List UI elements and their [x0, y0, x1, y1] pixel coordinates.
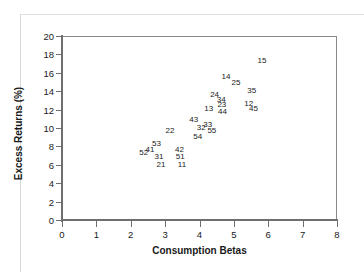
y-tick-mark — [56, 202, 62, 203]
x-tick-label: 5 — [222, 229, 246, 240]
scatter-point-label: 55 — [207, 125, 216, 134]
y-tick-mark — [56, 165, 62, 166]
x-tick-mark — [200, 221, 201, 227]
x-tick-label: 7 — [291, 229, 315, 240]
x-tick-mark — [268, 221, 269, 227]
scatter-point-label: 21 — [157, 159, 166, 168]
y-tick-mark — [56, 36, 62, 37]
y-tick-mark — [56, 54, 62, 55]
scatter-point-label: 15 — [258, 55, 267, 64]
y-tick-mark — [56, 110, 62, 111]
x-tick-label: 6 — [256, 229, 280, 240]
scatter-point-label: 22 — [165, 125, 174, 134]
x-tick-label: 1 — [84, 229, 108, 240]
scatter-point-label: 53 — [152, 138, 161, 147]
y-tick-mark — [56, 73, 62, 74]
y-tick-mark — [56, 183, 62, 184]
scatter-point-label: 44 — [218, 106, 227, 115]
x-tick-label: 8 — [325, 229, 349, 240]
x-tick-mark — [303, 221, 304, 227]
x-tick-label: 0 — [50, 229, 74, 240]
scatter-point-label: 25 — [231, 78, 240, 87]
scatter-point-label: 13 — [204, 103, 213, 112]
x-tick-label: 2 — [119, 229, 143, 240]
scatter-point-label: 54 — [193, 132, 202, 141]
y-tick-label: 0 — [8, 215, 54, 226]
scatter-point-label: 35 — [247, 86, 256, 95]
x-tick-mark — [234, 221, 235, 227]
y-axis-title: Excess Returns (%) — [13, 59, 24, 209]
x-tick-mark — [62, 221, 63, 227]
y-tick-mark — [56, 146, 62, 147]
x-tick-mark — [131, 221, 132, 227]
figure-page: 02468101214161820 012345678 524153312122… — [0, 0, 364, 272]
x-tick-label: 3 — [153, 229, 177, 240]
x-tick-label: 4 — [188, 229, 212, 240]
scatter-point-label: 11 — [178, 159, 186, 168]
clipped-header-text — [150, 0, 350, 8]
x-axis-title: Consumption Betas — [62, 245, 337, 256]
y-tick-mark — [56, 128, 62, 129]
scan-top-edge — [20, 14, 364, 15]
scatter-point-label: 14 — [222, 72, 231, 81]
y-tick-mark — [56, 91, 62, 92]
x-tick-mark — [165, 221, 166, 227]
x-tick-mark — [337, 221, 338, 227]
y-tick-label: 20 — [8, 31, 54, 42]
scatter-point-label: 45 — [249, 103, 258, 112]
x-tick-mark — [96, 221, 97, 227]
